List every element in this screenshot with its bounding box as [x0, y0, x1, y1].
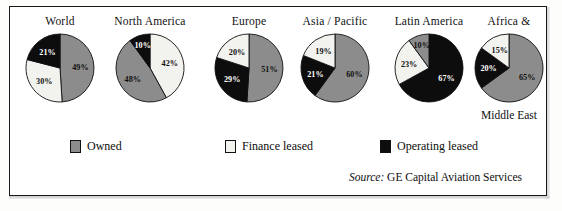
pie-slice-label: 10%: [413, 41, 429, 50]
pie-title: Asia / Pacific: [287, 15, 383, 28]
legend-item[interactable]: Owned: [70, 139, 122, 154]
legend-swatch-icon: [380, 140, 391, 153]
pie-subtitle: Middle East: [461, 109, 557, 122]
pie-graphic: 42%48%10%: [102, 30, 198, 108]
pie-slice-label: 48%: [125, 75, 141, 84]
pie-cell: Africa &65%20%15%Middle East: [461, 15, 557, 122]
pie-graphic: 51%29%20%: [201, 30, 297, 108]
pie-slice-label: 20%: [229, 48, 245, 57]
source-text: GE Capital Aviation Services: [387, 171, 522, 183]
pie-slice-label: 15%: [492, 46, 508, 55]
chart-legend: OwnedFinance leasedOperating leased: [10, 139, 548, 165]
source-note: Source: GE Capital Aviation Services: [349, 171, 522, 183]
legend-item[interactable]: Finance leased: [225, 139, 313, 154]
pie-slice-label: 20%: [480, 64, 496, 73]
pie-graphic: 49%30%21%: [12, 30, 108, 108]
pie-slice-label: 29%: [224, 75, 240, 84]
legend-label: Finance leased: [242, 139, 313, 154]
pie-graphic: 60%21%19%: [287, 30, 383, 108]
pie-slice-label: 19%: [315, 47, 331, 56]
legend-label: Owned: [87, 139, 122, 154]
pie-title: World: [12, 15, 108, 28]
pie-slice-label: 60%: [346, 70, 362, 79]
pie-slice-label: 30%: [36, 77, 52, 86]
chart-frame: World49%30%21%North America42%48%10%Euro…: [9, 6, 547, 196]
pie-cell: Europe51%29%20%: [201, 15, 297, 108]
pie-slice-label: 49%: [72, 63, 88, 72]
figure-root: World49%30%21%North America42%48%10%Euro…: [0, 0, 562, 211]
pie-cell: North America42%48%10%: [102, 15, 198, 108]
pie-graphic: 65%20%15%: [461, 30, 557, 108]
pie-slice-label: 65%: [519, 73, 535, 82]
pie-title: Europe: [201, 15, 297, 28]
pie-slice-label: 21%: [39, 48, 55, 57]
legend-item[interactable]: Operating leased: [380, 139, 478, 154]
pie-cell: World49%30%21%: [12, 15, 108, 108]
pie-slice-label: 23%: [401, 60, 417, 69]
pie-slice-label: 10%: [134, 41, 150, 50]
legend-swatch-icon: [225, 140, 236, 153]
legend-label: Operating leased: [397, 139, 478, 154]
pie-slice-label: 51%: [261, 65, 277, 74]
source-label: Source:: [349, 171, 384, 183]
legend-swatch-icon: [70, 140, 81, 153]
pie-title: Africa &: [461, 15, 557, 28]
pie-slice-label: 67%: [438, 74, 454, 83]
pie-title: North America: [102, 15, 198, 28]
page-edge-shadow-bottom: [9, 196, 550, 199]
pie-cell: Asia / Pacific60%21%19%: [287, 15, 383, 108]
pie-slice-label: 21%: [307, 70, 323, 79]
pie-chart-row: World49%30%21%North America42%48%10%Euro…: [10, 7, 548, 139]
pie-slice-label: 42%: [162, 59, 178, 68]
